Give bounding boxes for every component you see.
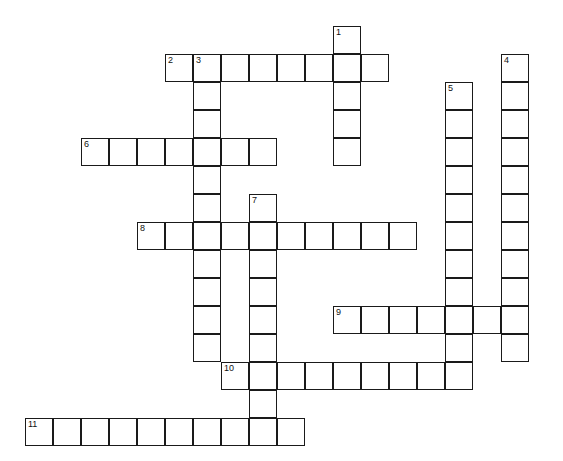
grid-cell[interactable] — [165, 222, 193, 250]
grid-cell[interactable] — [389, 306, 417, 334]
grid-cell[interactable] — [277, 54, 305, 82]
clue-number-9: 9 — [336, 307, 341, 318]
clue-number-5: 5 — [448, 83, 453, 94]
grid-cell-numbered-1[interactable]: 1 — [333, 26, 361, 54]
grid-cell[interactable] — [361, 306, 389, 334]
grid-cell[interactable] — [53, 418, 81, 446]
grid-cell[interactable] — [221, 138, 249, 166]
grid-cell[interactable] — [109, 138, 137, 166]
grid-cell[interactable] — [445, 278, 473, 306]
grid-cell[interactable] — [221, 222, 249, 250]
grid-cell[interactable] — [137, 418, 165, 446]
grid-cell-numbered-2[interactable]: 2 — [165, 54, 193, 82]
grid-cell-numbered-10[interactable]: 10 — [221, 362, 249, 390]
grid-cell[interactable] — [249, 222, 277, 250]
grid-cell[interactable] — [389, 222, 417, 250]
grid-cell-numbered-4[interactable]: 4 — [501, 54, 529, 82]
grid-cell[interactable] — [249, 306, 277, 334]
grid-cell[interactable] — [193, 334, 221, 362]
grid-cell[interactable] — [445, 362, 473, 390]
grid-cell[interactable] — [137, 138, 165, 166]
grid-cell[interactable] — [193, 82, 221, 110]
grid-cell-numbered-11[interactable]: 11 — [25, 418, 53, 446]
grid-cell[interactable] — [501, 82, 529, 110]
grid-cell[interactable] — [81, 418, 109, 446]
grid-cell[interactable] — [333, 82, 361, 110]
grid-cell[interactable] — [333, 222, 361, 250]
grid-cell[interactable] — [193, 278, 221, 306]
clue-number-10: 10 — [224, 363, 234, 374]
grid-cell[interactable] — [445, 222, 473, 250]
grid-cell-numbered-5[interactable]: 5 — [445, 82, 473, 110]
grid-cell[interactable] — [361, 54, 389, 82]
grid-cell[interactable] — [221, 54, 249, 82]
grid-cell[interactable] — [193, 166, 221, 194]
grid-cell[interactable] — [333, 362, 361, 390]
grid-cell-numbered-7[interactable]: 7 — [249, 194, 277, 222]
grid-cell[interactable] — [445, 250, 473, 278]
grid-cell[interactable] — [473, 306, 501, 334]
grid-cell[interactable] — [193, 222, 221, 250]
grid-cell[interactable] — [445, 166, 473, 194]
grid-cell[interactable] — [249, 390, 277, 418]
grid-cell[interactable] — [417, 306, 445, 334]
grid-cell[interactable] — [193, 418, 221, 446]
grid-cell[interactable] — [249, 418, 277, 446]
grid-cell-numbered-6[interactable]: 6 — [81, 138, 109, 166]
grid-cell[interactable] — [249, 138, 277, 166]
grid-cell[interactable] — [277, 222, 305, 250]
grid-cell[interactable] — [165, 418, 193, 446]
grid-cell[interactable] — [305, 54, 333, 82]
clue-number-2: 2 — [168, 55, 173, 66]
clue-number-4: 4 — [504, 55, 509, 66]
clue-number-8: 8 — [140, 223, 145, 234]
grid-cell[interactable] — [249, 362, 277, 390]
grid-cell[interactable] — [249, 54, 277, 82]
grid-cell[interactable] — [165, 138, 193, 166]
grid-cell[interactable] — [193, 306, 221, 334]
grid-cell[interactable] — [277, 362, 305, 390]
grid-cell[interactable] — [193, 110, 221, 138]
grid-cell[interactable] — [305, 362, 333, 390]
grid-cell[interactable] — [501, 306, 529, 334]
grid-cell[interactable] — [501, 110, 529, 138]
grid-cell[interactable] — [445, 306, 473, 334]
grid-cell[interactable] — [501, 138, 529, 166]
grid-cell[interactable] — [501, 222, 529, 250]
clue-number-11: 11 — [28, 419, 37, 430]
grid-cell[interactable] — [501, 334, 529, 362]
grid-cell[interactable] — [193, 250, 221, 278]
grid-cell[interactable] — [361, 362, 389, 390]
grid-cell[interactable] — [249, 250, 277, 278]
grid-cell-numbered-3[interactable]: 3 — [193, 54, 221, 82]
grid-cell[interactable] — [501, 166, 529, 194]
grid-cell[interactable] — [277, 418, 305, 446]
grid-cell[interactable] — [333, 138, 361, 166]
grid-cell[interactable] — [249, 334, 277, 362]
grid-cell[interactable] — [445, 334, 473, 362]
grid-cell[interactable] — [445, 110, 473, 138]
clue-number-3: 3 — [196, 55, 201, 66]
grid-cell[interactable] — [389, 362, 417, 390]
grid-cell[interactable] — [193, 138, 221, 166]
grid-cell[interactable] — [361, 222, 389, 250]
grid-cell-numbered-8[interactable]: 8 — [137, 222, 165, 250]
grid-cell[interactable] — [417, 362, 445, 390]
grid-cell[interactable] — [193, 194, 221, 222]
clue-number-1: 1 — [336, 27, 341, 38]
crossword-grid: 1234567891011 — [0, 0, 563, 461]
grid-cell[interactable] — [445, 138, 473, 166]
clue-number-7: 7 — [252, 195, 257, 206]
grid-cell[interactable] — [333, 54, 361, 82]
grid-cell[interactable] — [249, 278, 277, 306]
grid-cell[interactable] — [501, 278, 529, 306]
grid-cell[interactable] — [109, 418, 137, 446]
grid-cell[interactable] — [501, 250, 529, 278]
grid-cell[interactable] — [221, 418, 249, 446]
grid-cell[interactable] — [333, 110, 361, 138]
grid-cell[interactable] — [445, 194, 473, 222]
grid-cell[interactable] — [305, 222, 333, 250]
grid-cell[interactable] — [501, 194, 529, 222]
clue-number-6: 6 — [84, 139, 89, 150]
grid-cell-numbered-9[interactable]: 9 — [333, 306, 361, 334]
